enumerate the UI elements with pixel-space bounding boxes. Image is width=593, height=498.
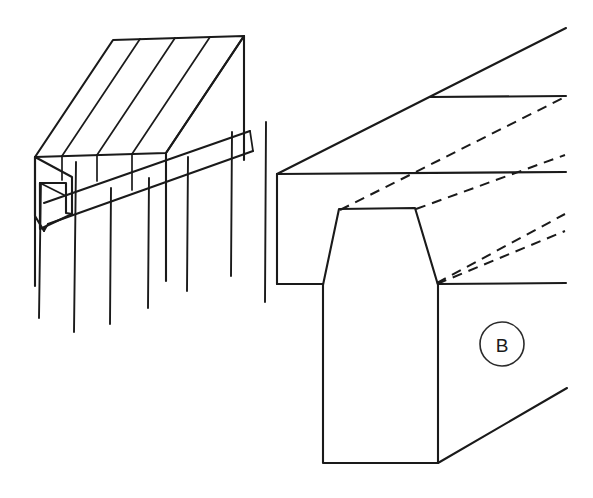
upper-horizontal-edge xyxy=(430,96,566,97)
break-line xyxy=(148,178,149,308)
drawing-canvas: B xyxy=(0,0,593,498)
break-line xyxy=(265,122,266,302)
bottom-horizontal-right xyxy=(438,283,566,284)
break-line xyxy=(187,157,188,291)
callout-label: B xyxy=(496,335,509,356)
break-line xyxy=(231,132,232,276)
break-line xyxy=(110,188,111,324)
technical-drawing-svg: B xyxy=(0,0,593,498)
